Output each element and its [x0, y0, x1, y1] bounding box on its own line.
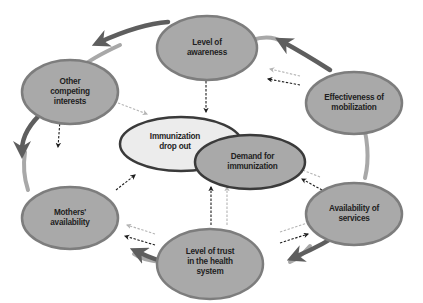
node-level-of-awareness: [157, 16, 257, 80]
node-level-of-trust: [157, 229, 263, 299]
node-availability-of-services: [306, 183, 402, 245]
node-demand-for-immunization: [195, 135, 305, 189]
immunization-dropout-diagram: Level of awareness Effectiveness of mobi…: [0, 0, 423, 303]
node-other-competing-interests: [22, 60, 118, 124]
center-nodes: [120, 117, 305, 189]
node-effectiveness-of-mobilization: [306, 72, 402, 134]
node-mothers-availability: [22, 187, 118, 249]
